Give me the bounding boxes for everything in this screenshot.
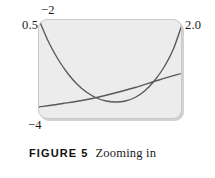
figure-caption-number: FIGURE 5 <box>29 147 89 159</box>
viewport-label-x-min: 0.5 <box>22 19 38 32</box>
graph-screen <box>38 19 182 119</box>
figure-container: −2 0.5 2.0 −4 FIGURE 5Zooming in <box>0 0 215 178</box>
viewport-label-y-max: −2 <box>41 4 55 17</box>
plot-canvas <box>39 20 182 119</box>
figure-caption-text: Zooming in <box>96 146 157 160</box>
figure-caption: FIGURE 5Zooming in <box>29 144 156 160</box>
graph-viewport <box>38 19 182 119</box>
viewport-label-y-min: −4 <box>28 119 42 132</box>
viewport-label-x-max: 2.0 <box>185 19 201 32</box>
curve-parabola <box>39 20 182 102</box>
